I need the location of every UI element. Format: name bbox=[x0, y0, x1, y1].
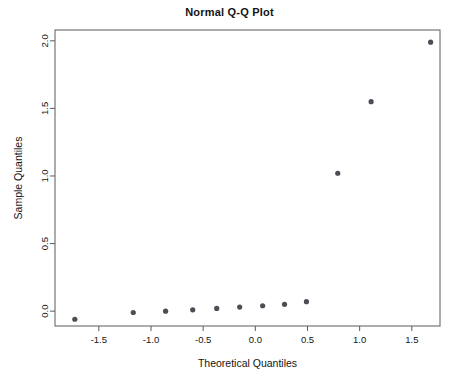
data-point bbox=[260, 303, 265, 308]
x-tick-label: -1.0 bbox=[143, 334, 159, 345]
y-tick-label: 0.5 bbox=[40, 237, 51, 250]
data-point bbox=[304, 299, 309, 304]
qq-plot-figure: Normal Q-Q Plot -1.5-1.0-0.50.00.51.01.5… bbox=[0, 0, 459, 381]
plot-frame bbox=[55, 30, 440, 326]
y-tick-label: 0.0 bbox=[40, 305, 51, 318]
data-point bbox=[335, 171, 340, 176]
y-tick-label: 1.5 bbox=[40, 102, 51, 115]
x-tick-label: 0.0 bbox=[249, 334, 262, 345]
data-point bbox=[190, 307, 195, 312]
x-tick-label: 1.0 bbox=[353, 334, 366, 345]
y-axis-title: Sample Quantiles bbox=[12, 137, 24, 220]
data-point bbox=[428, 40, 433, 45]
y-tick-label: 1.0 bbox=[40, 169, 51, 182]
data-point bbox=[214, 306, 219, 311]
data-point bbox=[237, 304, 242, 309]
x-axis-title: Theoretical Quantiles bbox=[198, 357, 297, 369]
x-tick-label: -1.5 bbox=[91, 334, 107, 345]
data-point bbox=[72, 317, 77, 322]
x-tick-label: 1.5 bbox=[405, 334, 418, 345]
data-point bbox=[282, 302, 287, 307]
data-point bbox=[131, 310, 136, 315]
plot-canvas: -1.5-1.0-0.50.00.51.01.50.00.51.01.52.0T… bbox=[0, 0, 459, 381]
y-tick-label: 2.0 bbox=[40, 34, 51, 47]
data-point bbox=[369, 99, 374, 104]
x-tick-label: -0.5 bbox=[195, 334, 211, 345]
data-point bbox=[163, 309, 168, 314]
x-tick-label: 0.5 bbox=[301, 334, 314, 345]
